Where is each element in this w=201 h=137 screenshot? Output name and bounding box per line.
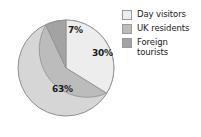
pie-label-uk-residents: 63% (52, 84, 73, 94)
legend-item-day-visitors[interactable]: Day visitors (122, 9, 201, 20)
legend-swatch-uk-residents (122, 24, 132, 34)
legend-swatch-day-visitors (122, 10, 132, 20)
pie-chart-figure: 30% 63% 7% Day visitors UK residents For… (0, 0, 201, 137)
legend-label-day-visitors: Day visitors (137, 9, 186, 19)
pie-chart-plot: 30% 63% 7% (16, 9, 116, 128)
legend-item-foreign-tourists[interactable]: Foreign tourists (122, 37, 201, 57)
legend-label-foreign-tourists: Foreign tourists (137, 37, 201, 57)
legend-swatch-foreign-tourists (122, 38, 132, 48)
legend-label-uk-residents: UK residents (137, 23, 189, 33)
pie-chart-svg (16, 9, 116, 128)
pie-label-foreign-tourists: 7% (68, 25, 83, 35)
legend-item-uk-residents[interactable]: UK residents (122, 23, 201, 34)
pie-label-day-visitors: 30% (92, 48, 113, 58)
chart-legend: Day visitors UK residents Foreign touris… (122, 9, 201, 60)
